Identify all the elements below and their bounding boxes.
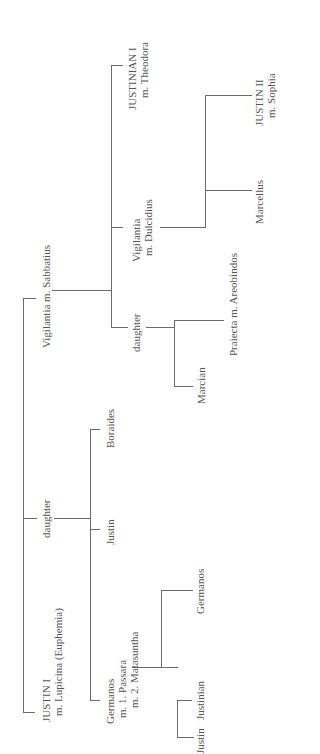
connector-daughter1-right — [54, 518, 91, 519]
node-praiecta: Praiecta m. Areobindos — [227, 253, 239, 356]
connector-germanos-jr-tick — [161, 590, 193, 591]
connector-vigilantia2-children — [205, 95, 206, 228]
connector-daughter1-left — [23, 518, 37, 519]
node-daughter1: daughter — [40, 500, 52, 538]
node-germanos: Germanos m. 1. Passara m. 2. Matasuntha — [104, 632, 140, 724]
connector-germanos-children-a — [161, 590, 162, 668]
connector-justinian1-tick — [111, 65, 123, 66]
connector-justin-son-tick — [90, 529, 100, 530]
node-germanos-jr: Germanos — [194, 569, 206, 614]
node-justin-son: Justin — [104, 519, 116, 545]
connector-gm-to-grandsons — [177, 700, 178, 737]
connector-germanos-children-bridge — [161, 667, 178, 668]
node-justin2: JUSTIN II m. Sophia — [253, 73, 277, 126]
connector-germanos-tick — [90, 700, 100, 701]
connector-marcian-tick — [174, 386, 193, 387]
node-vigilantia2: Vigilantia m. Dulcidius — [130, 199, 154, 262]
node-justinian-grandson: Justinian — [194, 681, 206, 720]
connector-justin1-trunk — [23, 298, 24, 713]
node-justin-grandson: Justin — [194, 728, 206, 754]
connector-marcellus-tick — [205, 190, 252, 191]
connector-daughter2-tick — [111, 327, 128, 328]
node-marcellus: Marcellus — [253, 180, 265, 224]
connector-daughter2-out — [146, 327, 175, 328]
connector-vigilantia1-children — [111, 65, 112, 327]
node-marcian: Marcian — [195, 367, 207, 404]
connector-justin1-tick — [23, 712, 35, 713]
connector-justin2-tick — [205, 95, 252, 96]
connector-daughter1-children — [90, 429, 91, 700]
connector-praiecta-tick — [174, 320, 224, 321]
connector-vigilantia1-tick — [23, 298, 36, 299]
node-justinian1: JUSTINIAN I m. Theodora — [126, 42, 150, 110]
connector-vigilantia1-out — [52, 290, 111, 291]
connector-daughter2-children — [174, 320, 175, 386]
connector-boraides-tick — [90, 429, 100, 430]
node-vigilantia1: Vigilantia m. Sabbatius — [40, 245, 52, 348]
connector-vigilantia2-tick — [111, 227, 123, 228]
node-boraides: Boraides — [104, 409, 116, 448]
connector-justinian-g-tick — [177, 700, 192, 701]
node-daughter2: daughter — [130, 314, 142, 352]
node-justin1: JUSTIN I m. Lupicina (Euphemia) — [40, 608, 64, 722]
connector-justin-g-tick — [177, 737, 194, 738]
connector-vigilantia2-out — [160, 227, 205, 228]
